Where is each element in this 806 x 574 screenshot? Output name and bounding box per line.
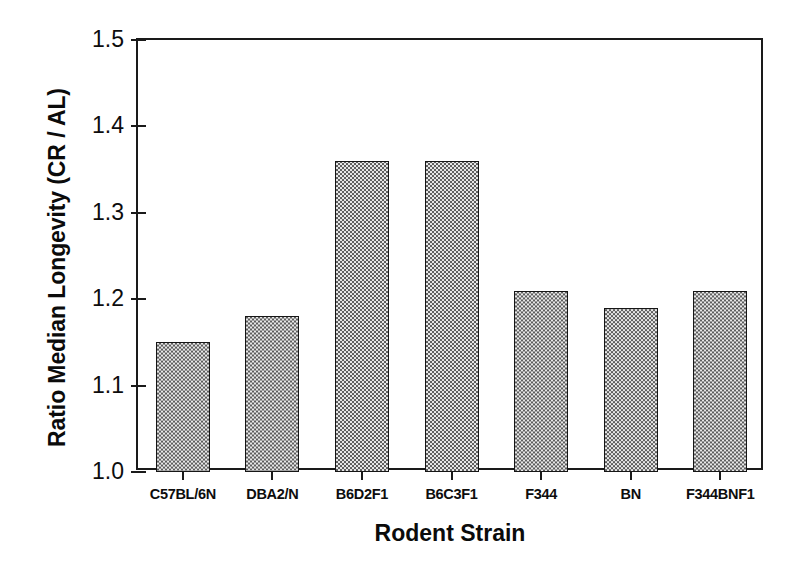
y-tick-mark: [131, 125, 146, 127]
y-tick-mark: [131, 39, 146, 41]
bar: [245, 316, 299, 472]
bar: [604, 308, 658, 472]
y-tick-mark: [131, 385, 146, 387]
y-tick-label: 1.2: [58, 285, 124, 312]
bar-chart-figure: Ratio Median Longevity (CR / AL) 1.51.41…: [0, 0, 806, 574]
y-tick-label: 1.1: [58, 372, 124, 399]
y-tick-mark: [131, 212, 146, 214]
y-tick-mark: [131, 471, 146, 473]
bar: [335, 161, 389, 472]
bar: [156, 342, 210, 472]
y-tick-label: 1.5: [58, 26, 124, 53]
y-tick-label: 1.0: [58, 458, 124, 485]
y-axis-title: Ratio Median Longevity (CR / AL): [44, 43, 71, 493]
bar: [425, 161, 479, 472]
bar: [514, 291, 568, 472]
y-tick-label: 1.3: [58, 199, 124, 226]
x-tick-label: F344BNF1: [640, 486, 800, 502]
bar: [693, 291, 747, 472]
x-axis-title: Rodent Strain: [136, 520, 764, 547]
plot-area: 1.51.41.31.21.11.0 C57BL/6NDBA2/NB6D2F1B…: [136, 38, 763, 470]
y-tick-label: 1.4: [58, 112, 124, 139]
y-tick-mark: [131, 298, 146, 300]
